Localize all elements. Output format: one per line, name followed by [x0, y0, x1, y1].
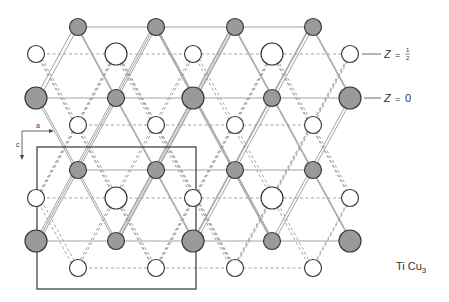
atom-zhalf [305, 260, 322, 277]
equals-sign: = [395, 94, 400, 104]
crystal-structure-diagram: a c Z = 1 2 Z = 0 TiCu3 [0, 0, 449, 302]
atom-zhalf [70, 260, 87, 277]
atom-z0 [25, 230, 47, 252]
atom-zhalf [185, 190, 202, 207]
atom-z0 [182, 87, 204, 109]
atom-z0 [339, 230, 361, 252]
atom-zhalf [70, 117, 87, 134]
atom-zhalf [342, 46, 359, 63]
axis-a-label: a [36, 122, 40, 129]
arrow-down-icon [20, 155, 24, 160]
atom-zhalf [28, 190, 45, 207]
solid-bond [36, 27, 74, 97]
atom-z0 [264, 233, 281, 250]
axis-c-label: c [16, 141, 20, 148]
equals-sign: = [395, 50, 400, 60]
atom-zhalf [261, 187, 283, 209]
atom-z0 [339, 87, 361, 109]
z-label: Z [383, 92, 392, 104]
atom-zhalf [305, 117, 322, 134]
atom-z0 [70, 162, 87, 179]
atom-z0 [148, 162, 165, 179]
solid-bond [38, 27, 155, 241]
atom-zhalf [227, 117, 244, 134]
atom-zhalf [28, 46, 45, 63]
atom-z0 [305, 162, 322, 179]
atom-zhalf [261, 43, 283, 65]
atom-z0 [182, 230, 204, 252]
atom-zhalf [342, 190, 359, 207]
frac-den: 2 [406, 55, 410, 61]
z-label: Z [383, 48, 392, 60]
layer-label-half: Z = 1 2 [362, 47, 410, 61]
dashed-bond [233, 54, 350, 268]
atom-z0 [227, 19, 244, 36]
axis-indicator: a c [16, 122, 54, 160]
frac-num: 1 [406, 47, 410, 53]
atom-zhalf [105, 43, 127, 65]
solid-bond [312, 27, 350, 97]
atom-z0 [148, 19, 165, 36]
atom-z0 [108, 90, 125, 107]
atom-zhalf [185, 46, 202, 63]
compound-label: TiCu3 [396, 260, 427, 275]
atom-z0 [108, 233, 125, 250]
atom-z0 [264, 90, 281, 107]
solid-bond [155, 27, 272, 241]
zero-value: 0 [405, 92, 411, 104]
atom-z0 [305, 19, 322, 36]
atom-zhalf [148, 117, 165, 134]
atom-z0 [227, 162, 244, 179]
atom-z0 [25, 87, 47, 109]
atom-zhalf [227, 260, 244, 277]
dashed-bond [117, 54, 234, 268]
dashed-bond [234, 55, 350, 268]
atom-zhalf [105, 187, 127, 209]
atom-z0 [70, 19, 87, 36]
layer-label-zero: Z = 0 [364, 92, 411, 104]
atom-zhalf [148, 260, 165, 277]
